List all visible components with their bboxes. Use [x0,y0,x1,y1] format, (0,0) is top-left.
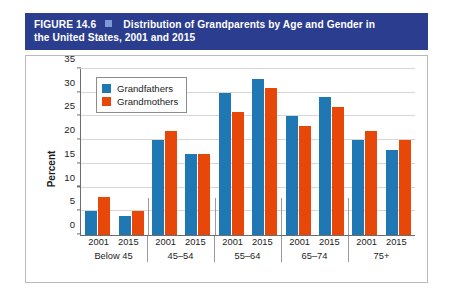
x-group-label: 2001201565–74 [281,236,348,270]
x-category-label: 75+ [348,249,415,263]
bar [319,97,331,235]
bar [165,131,177,235]
bar [119,216,131,235]
legend-swatch-grandfathers-icon [102,84,111,93]
bar [332,107,344,235]
y-tick-label: 0 [70,219,75,230]
bar [98,197,110,235]
x-year-label: 2001 [289,236,310,248]
bar-subgroup [348,69,381,235]
y-tick-label: 5 [70,195,75,206]
bar-group [215,69,282,235]
x-year-label: 2015 [118,236,139,248]
legend-swatch-grandmothers-icon [102,97,111,106]
bar [286,116,298,235]
bar [365,131,377,235]
bar [299,126,311,235]
x-year-label: 2001 [88,236,109,248]
bar-group [348,69,415,235]
x-label-separator [348,236,349,262]
x-year-label: 2001 [222,236,243,248]
x-year-label: 2015 [319,236,340,248]
y-tick-label: 20 [64,124,75,135]
bar [132,211,144,235]
x-group-label: 2001201555–64 [214,236,281,270]
y-tick-label: 10 [64,171,75,182]
figure-number: FIGURE 14.6 [34,18,96,31]
bar [219,93,231,235]
x-axis-labels: 20012015Below 452001201545–542001201555–… [80,236,415,270]
bar [265,88,277,235]
y-tick-label: 25 [64,100,75,111]
x-label-separator [281,236,282,262]
x-category-label: 55–64 [214,249,281,263]
bar [352,140,364,235]
legend-label-grandfathers: Grandfathers [117,83,173,94]
y-tick-label: 30 [64,76,75,87]
figure-container: FIGURE 14.6 Distribution of Grandparents… [0,0,452,297]
bar [152,140,164,235]
bar [252,79,264,236]
bar [232,112,244,235]
x-group-label: 2001201545–54 [147,236,214,270]
x-year-label: 2001 [155,236,176,248]
group-separator [281,198,282,235]
bar [198,154,210,235]
legend-item-grandmothers: Grandmothers [102,95,178,108]
y-tick-label: 15 [64,147,75,158]
x-year-label: 2015 [252,236,273,248]
bar [399,140,411,235]
bar-subgroup [315,69,348,235]
legend-item-grandfathers: Grandfathers [102,82,178,95]
x-category-label: 65–74 [281,249,348,263]
figure-title-line-2: the United States, 2001 and 2015 [34,31,420,44]
group-separator [348,198,349,235]
bar-subgroup [248,69,281,235]
bar-subgroup [382,69,415,235]
bar [85,211,97,235]
x-year-label: 2001 [356,236,377,248]
bar [185,154,197,235]
x-category-label: Below 45 [80,249,147,263]
bar-subgroup [281,69,314,235]
legend-label-grandmothers: Grandmothers [117,96,178,107]
y-axis-label: Percent [46,151,57,188]
x-category-label: 45–54 [147,249,214,263]
chart-legend: Grandfathers Grandmothers [96,77,187,113]
x-label-separator [147,236,148,262]
bar-subgroup [215,69,248,235]
plot-frame: Percent 05101520253035 20012015Below 452… [25,55,428,283]
figure-caption-banner: FIGURE 14.6 Distribution of Grandparents… [25,13,428,50]
group-separator [215,198,216,235]
y-tick-label: 35 [64,53,75,64]
square-marker-icon [105,20,112,27]
bar-group [281,69,348,235]
figure-title-line-1: Distribution of Grandparents by Age and … [123,18,375,31]
x-year-label: 2015 [185,236,206,248]
bar [386,150,398,235]
x-group-label: 2001201575+ [348,236,415,270]
x-group-label: 20012015Below 45 [80,236,147,270]
x-label-separator [214,236,215,262]
x-year-label: 2015 [386,236,407,248]
group-separator [148,198,149,235]
